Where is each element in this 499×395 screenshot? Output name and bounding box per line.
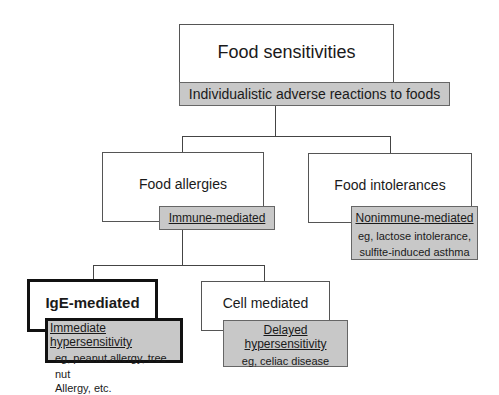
cell-detail-1: eg, celiac disease	[224, 353, 347, 369]
nonimmune-mediated-text: Nonimmune-mediated	[352, 211, 477, 225]
immune-mediated-text: Immune-mediated	[160, 207, 274, 229]
nonimmune-mediated-label: Nonimmune-mediated eg, lactose intoleran…	[351, 206, 478, 260]
ige-detail-2: Allergy, etc.	[50, 382, 180, 395]
immediate-hypersensitivity-label: Immediate hypersensitivity eg, peanut al…	[45, 318, 183, 363]
immediate-hypersensitivity-text: Immediate hypersensitivity	[50, 321, 180, 349]
adverse-reactions-text: Individualistic adverse reactions to foo…	[189, 86, 440, 102]
connector	[264, 265, 265, 281]
delayed-hypersensitivity-text: Delayed hypersensitivity	[224, 323, 347, 351]
connector	[93, 265, 265, 266]
ige-detail-1: eg, peanut allergy, tree nut	[50, 350, 180, 382]
connector	[182, 229, 183, 265]
connector	[275, 106, 276, 136]
connector	[182, 136, 391, 137]
connector	[182, 136, 183, 152]
food-intolerances-title: Food intolerances	[309, 177, 471, 193]
ige-mediated-title: IgE-mediated	[30, 294, 155, 311]
cell-mediated-title: Cell mediated	[202, 295, 329, 311]
immune-mediated-label: Immune-mediated	[159, 206, 275, 230]
adverse-reactions-label: Individualistic adverse reactions to foo…	[179, 82, 450, 106]
food-sensitivities-title: Food sensitivities	[180, 42, 393, 63]
intolerances-detail-1: eg, lactose intolerance,	[352, 228, 477, 244]
connector	[390, 136, 391, 153]
food-allergies-title: Food allergies	[103, 176, 263, 192]
intolerances-detail-2: sulfite-induced asthma	[352, 244, 477, 260]
connector	[93, 265, 94, 279]
delayed-hypersensitivity-label: Delayed hypersensitivity eg, celiac dise…	[223, 320, 348, 367]
